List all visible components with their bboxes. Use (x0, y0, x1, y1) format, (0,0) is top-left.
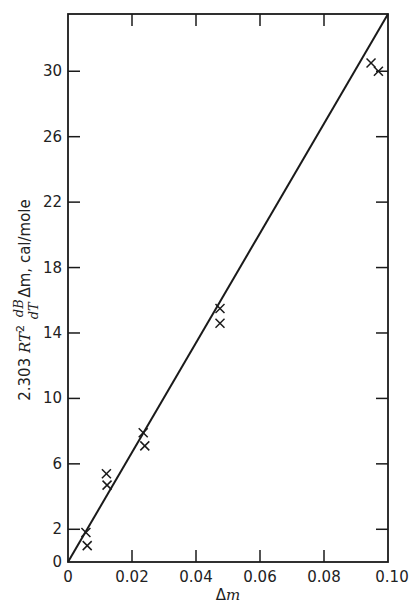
y-axis-title-dt: dT (26, 301, 41, 319)
x-marker (83, 541, 92, 550)
fit-line (68, 14, 388, 562)
chart: 00.020.040.060.080.10026101418222630 Δm … (0, 0, 410, 606)
y-tick-label: 30 (43, 62, 62, 80)
x-marker (140, 441, 149, 450)
tick-labels: 00.020.040.060.080.10026101418222630 (43, 62, 409, 586)
data-points (81, 59, 382, 551)
y-tick-label: 18 (43, 259, 62, 277)
fit-line-segment (68, 14, 388, 562)
y-axis-title: 2.303 RT2 dBdT Δm, cal/mole (11, 199, 41, 401)
y-tick-label: 6 (52, 455, 62, 473)
y-axis-title-dm: Δm, (16, 268, 34, 302)
x-marker (139, 428, 148, 437)
x-axis-title-m: m (226, 586, 240, 604)
x-tick-label: 0.02 (115, 568, 148, 586)
y-tick-label: 2 (52, 520, 62, 538)
y-axis-title-units: cal/mole (16, 199, 34, 268)
y-tick-label: 26 (43, 128, 62, 146)
x-marker (102, 469, 111, 478)
x-tick-label: 0.04 (179, 568, 212, 586)
x-tick-label: 0 (63, 568, 73, 586)
x-tick-label: 0.10 (375, 568, 408, 586)
x-marker (216, 319, 225, 328)
x-marker (367, 59, 376, 68)
x-tick-label: 0.06 (243, 568, 276, 586)
y-tick-label: 14 (43, 324, 62, 342)
y-tick-label: 0 (52, 553, 62, 571)
y-axis-title-rt: RT (16, 331, 34, 354)
y-axis-title-sup: 2 (14, 325, 27, 332)
svg-text:2.303 RT2 dBdT Δm, cal/mole: 2.303 RT2 dBdT Δm, cal/mole (11, 199, 41, 401)
x-tick-label: 0.08 (307, 568, 340, 586)
y-tick-label: 22 (43, 193, 62, 211)
x-marker (103, 481, 112, 490)
y-tick-label: 10 (43, 389, 62, 407)
y-axis-title-prefix: 2.303 (16, 353, 34, 401)
x-axis-title: Δm (216, 586, 241, 604)
